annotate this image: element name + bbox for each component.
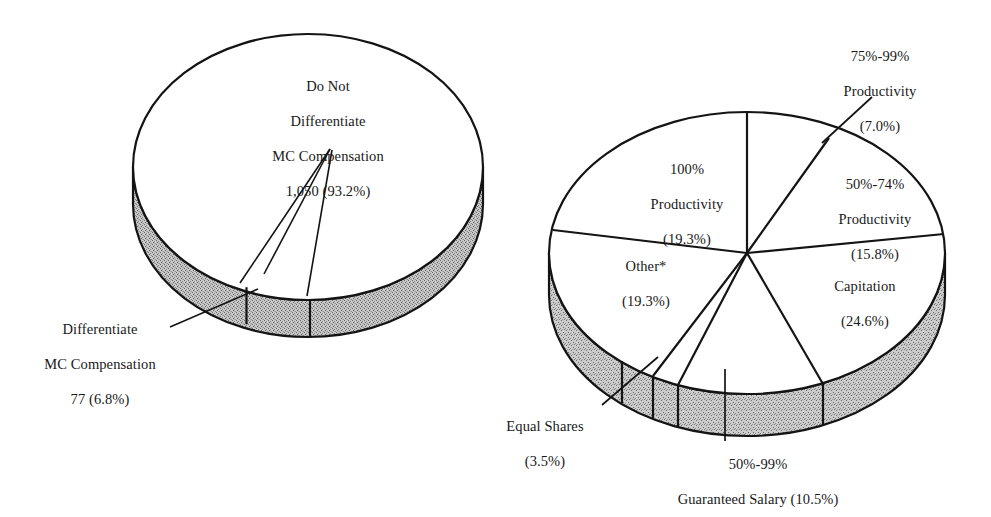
label-line: Differentiate <box>8 321 192 339</box>
label-line: Other* <box>583 258 709 276</box>
label-line: 75%-99% <box>800 48 960 66</box>
label-value: (24.6%) <box>795 313 935 331</box>
label-value: Guaranteed Salary (10.5%) <box>613 491 903 509</box>
left-pie-label-do-not-differentiate: Do Not Differentiate MC Compensation 1,0… <box>228 60 428 218</box>
label-line: MC Compensation <box>8 356 192 374</box>
right-pie-label-other: Other* (19.3%) <box>583 240 709 328</box>
label-value: 77 (6.8%) <box>8 391 192 409</box>
label-value: (19.3%) <box>583 293 709 311</box>
right-pie-label-guaranteed-salary: 50%-99% Guaranteed Salary (10.5%) <box>613 438 903 517</box>
label-line: Productivity <box>800 211 950 229</box>
label-line: 50%-74% <box>800 176 950 194</box>
label-line: Productivity <box>612 196 762 214</box>
label-line: 50%-99% <box>613 456 903 474</box>
right-pie-label-equal-shares: Equal Shares (3.5%) <box>480 400 610 488</box>
left-pie-label-differentiate: Differentiate MC Compensation 77 (6.8%) <box>8 303 192 426</box>
label-line: Capitation <box>795 278 935 296</box>
label-value: (3.5%) <box>480 453 610 471</box>
label-line: 100% <box>612 161 762 179</box>
label-value: 1,050 (93.2%) <box>228 183 428 201</box>
label-line: Equal Shares <box>480 418 610 436</box>
label-line: Do Not <box>228 78 428 96</box>
label-line: Differentiate <box>228 113 428 131</box>
label-line: MC Compensation <box>228 148 428 166</box>
figure-canvas: Do Not Differentiate MC Compensation 1,0… <box>0 0 991 517</box>
label-value: (7.0%) <box>800 118 960 136</box>
right-pie-label-75-99-productivity: 75%-99% Productivity (7.0%) <box>800 30 960 153</box>
label-line: Productivity <box>800 83 960 101</box>
right-pie-label-capitation: Capitation (24.6%) <box>795 260 935 348</box>
